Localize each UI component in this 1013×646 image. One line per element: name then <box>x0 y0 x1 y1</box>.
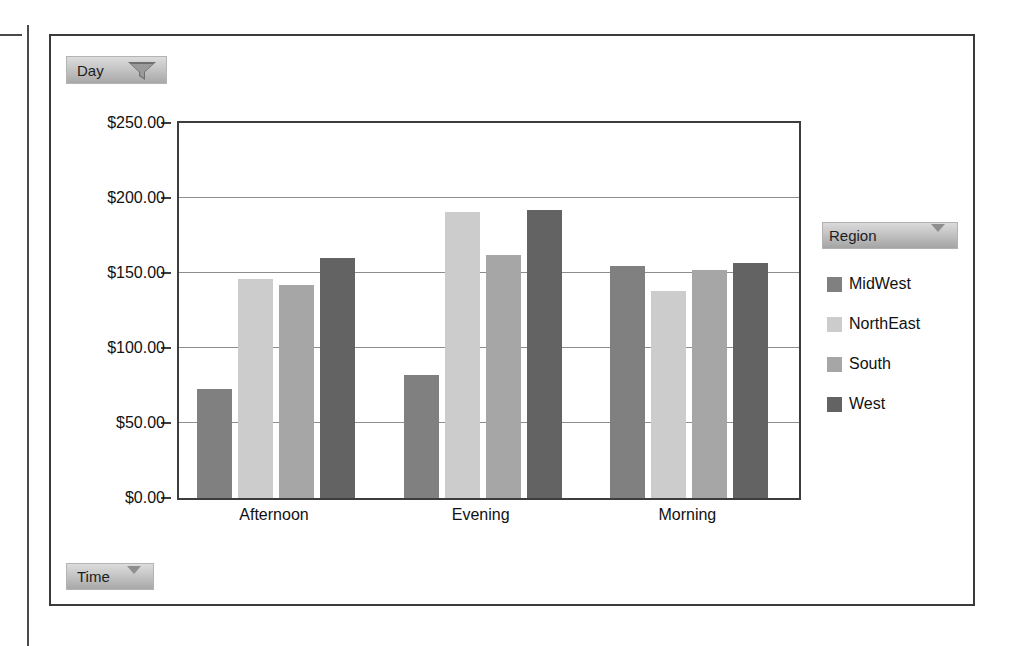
bar[interactable] <box>445 212 480 499</box>
x-axis-tick-label: Evening <box>452 506 510 524</box>
bar[interactable] <box>279 285 314 498</box>
legend-swatch <box>827 357 842 372</box>
bar-group <box>610 123 768 498</box>
legend-item[interactable]: West <box>822 384 967 424</box>
bar[interactable] <box>651 291 686 498</box>
y-axis-labels: $0.00$50.00$100.00$150.00$200.00$250.00 <box>61 121 165 500</box>
legend: Region MidWestNorthEastSouthWest <box>822 222 967 424</box>
chevron-down-icon <box>931 232 945 249</box>
legend-item-label: MidWest <box>849 275 911 293</box>
legend-swatch <box>827 277 842 292</box>
report-panel: Day $0.00$50.00$100.00$150.00$200.00$250… <box>49 34 975 606</box>
bars-layer <box>179 123 799 498</box>
x-axis-tick-label: Afternoon <box>239 506 308 524</box>
legend-swatch <box>827 397 842 412</box>
region-dropdown-button[interactable]: Region <box>822 222 958 249</box>
legend-swatch <box>827 317 842 332</box>
y-axis-tick-label: $250.00 <box>65 114 165 132</box>
legend-item[interactable]: NorthEast <box>822 304 967 344</box>
region-dropdown-label: Region <box>829 227 877 244</box>
bar[interactable] <box>486 255 521 498</box>
y-axis-tick-label: $50.00 <box>65 414 165 432</box>
legend-item[interactable]: South <box>822 344 967 384</box>
y-axis-tick-label: $200.00 <box>65 189 165 207</box>
time-filter-button[interactable]: Time <box>66 563 154 590</box>
bar[interactable] <box>320 258 355 498</box>
bar[interactable] <box>197 389 232 499</box>
bar[interactable] <box>404 375 439 498</box>
x-axis-tick-label: Morning <box>658 506 716 524</box>
bar[interactable] <box>238 279 273 498</box>
page-edge-line-vertical <box>27 25 29 646</box>
plot-area <box>177 121 801 500</box>
legend-item[interactable]: MidWest <box>822 264 967 304</box>
bar-group <box>197 123 355 498</box>
x-axis-labels: AfternoonEveningMorning <box>177 506 801 532</box>
bar[interactable] <box>610 266 645 499</box>
y-axis-tick-label: $150.00 <box>65 264 165 282</box>
chevron-down-icon <box>127 574 141 591</box>
bar[interactable] <box>527 210 562 498</box>
page-edge-line-horizontal <box>0 34 22 36</box>
time-filter-label: Time <box>77 568 110 585</box>
y-axis-tick-label: $0.00 <box>65 489 165 507</box>
legend-item-label: South <box>849 355 891 373</box>
bar-group <box>404 123 562 498</box>
legend-items: MidWestNorthEastSouthWest <box>822 264 967 424</box>
bar[interactable] <box>733 263 768 499</box>
legend-item-label: West <box>849 395 885 413</box>
legend-item-label: NorthEast <box>849 315 920 333</box>
bar[interactable] <box>692 270 727 498</box>
y-axis-tick-label: $100.00 <box>65 339 165 357</box>
